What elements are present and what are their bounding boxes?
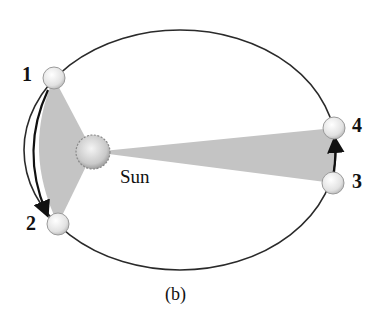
position-label-1: 1 <box>22 63 32 86</box>
planet-position-3-icon <box>322 172 344 194</box>
sun-label: Sun <box>120 166 150 188</box>
position-label-3: 3 <box>352 170 362 193</box>
position-label-2: 2 <box>26 212 36 235</box>
position-label-4: 4 <box>352 114 362 137</box>
planet-position-2-icon <box>47 213 69 235</box>
arrow-3-to-4 <box>334 142 335 172</box>
sun-icon <box>76 135 110 169</box>
kepler-second-law-diagram: 1 2 3 4 Sun (b) <box>0 0 392 316</box>
planet-position-1-icon <box>43 67 65 89</box>
planet-position-4-icon <box>323 117 345 139</box>
figure-caption: (b) <box>165 284 186 305</box>
orbit-diagram <box>0 0 392 316</box>
